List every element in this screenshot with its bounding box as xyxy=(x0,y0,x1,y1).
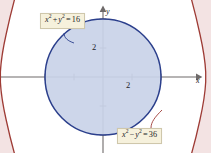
hyperbola-eq-equals: = xyxy=(142,130,149,139)
x-axis-label: x xyxy=(196,76,200,85)
coordinate-plot xyxy=(0,0,211,153)
callout-circle-equation: x2+y2=16 xyxy=(40,13,85,29)
figure-container: x2+y2=16 x2−y2=36 x y 2 2 xyxy=(0,0,211,153)
hyperbola-callout-leader-line xyxy=(151,110,162,128)
hyperbola-eq-rhs: 36 xyxy=(149,130,157,139)
x-axis-tick-label-2: 2 xyxy=(126,80,130,90)
y-axis-label: y xyxy=(106,7,110,16)
callout-hyperbola-equation: x2−y2=36 xyxy=(117,128,162,144)
circle-eq-rhs: 16 xyxy=(72,15,80,24)
y-axis-tick-label-2: 2 xyxy=(92,42,96,52)
circle-eq-equals: = xyxy=(65,15,72,24)
circle-curve xyxy=(45,19,161,135)
